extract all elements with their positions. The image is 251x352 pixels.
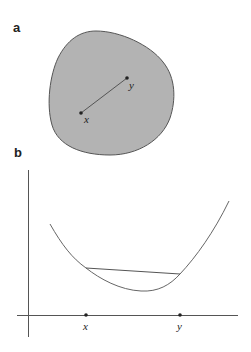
point-x-dot xyxy=(79,111,83,115)
figure-canvas: x y x y xyxy=(0,0,251,352)
convex-function-curve xyxy=(50,201,229,291)
tick-y-label: y xyxy=(176,320,182,332)
point-y-label: y xyxy=(128,79,134,91)
tick-x-dot xyxy=(84,313,88,317)
tick-x-label: x xyxy=(82,320,88,332)
tick-y-dot xyxy=(178,313,182,317)
chord-xy xyxy=(86,268,180,274)
point-x-label: x xyxy=(83,113,89,125)
convex-set-shape xyxy=(49,31,174,155)
panel-a-diagram: x y xyxy=(49,31,174,155)
panel-b-diagram: x y xyxy=(17,170,238,337)
